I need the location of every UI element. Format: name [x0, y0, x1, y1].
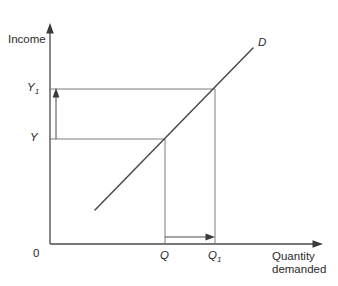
q1-subscript: 1: [217, 255, 221, 264]
q1-base: Q: [208, 249, 217, 261]
q-tick-label: Q: [160, 249, 169, 262]
economics-diagram: Income Quantity demanded 0 Y1 Y Q Q1 D: [0, 0, 338, 286]
y1-base: Y: [27, 81, 35, 93]
y1-subscript: 1: [35, 87, 39, 96]
demand-curve-label: D: [258, 36, 266, 49]
origin-label: 0: [33, 247, 39, 260]
q1-tick-label: Q1: [208, 249, 221, 264]
x-axis-label-line1: Quantity: [272, 250, 315, 262]
y-tick-label: Y: [30, 131, 38, 144]
diagram-canvas: [0, 0, 338, 286]
x-axis-label: Quantity demanded: [272, 250, 326, 276]
y-axis-arrowhead-icon: [46, 23, 54, 34]
y-axis-label: Income: [8, 33, 46, 46]
x-axis-arrowhead-icon: [313, 240, 324, 248]
quantity-increase-arrowhead-icon: [206, 234, 216, 241]
y1-tick-label: Y1: [27, 81, 39, 96]
x-axis-label-line2: demanded: [272, 263, 326, 276]
demand-curve-line: [95, 48, 253, 210]
